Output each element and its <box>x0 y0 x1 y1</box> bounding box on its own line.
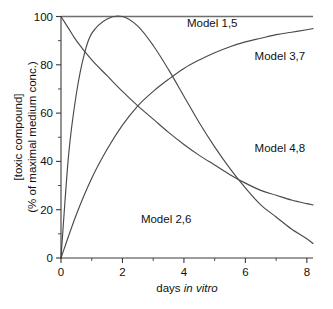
x-ticklabel-0: 0 <box>58 266 64 278</box>
y-axis-title: [toxic compound] (% of maximal medium co… <box>12 61 38 213</box>
x-axis-title-italic: in vitro <box>184 282 218 294</box>
y-ticklabel-100: 100 <box>34 11 53 23</box>
x-ticklabel-group: 02468 <box>58 266 310 278</box>
y-ticklabel-80: 80 <box>40 59 53 71</box>
series-label-model-1-5: Model 1,5 <box>187 17 238 29</box>
y-axis-title-line2: (% of maximal medium conc.) <box>26 61 38 213</box>
line-chart: 020406080100 02468 Model 1,5Model 2,6Mod… <box>0 0 333 309</box>
x-tick-group <box>61 258 307 263</box>
y-ticklabel-60: 60 <box>40 107 53 119</box>
x-axis-title-plain: days <box>156 282 184 294</box>
series-label-model-2-6: Model 2,6 <box>141 213 192 225</box>
y-ticklabel-20: 20 <box>40 204 53 216</box>
y-axis-title-line1: [toxic compound] <box>12 94 24 181</box>
chart-figure: 020406080100 02468 Model 1,5Model 2,6Mod… <box>0 0 333 309</box>
series-label-model-4-8: Model 4,8 <box>255 142 306 154</box>
y-tick-group <box>56 17 61 259</box>
curve-model-4-8 <box>61 17 313 205</box>
y-ticklabel-0: 0 <box>47 252 53 264</box>
x-ticklabel-4: 4 <box>181 266 188 278</box>
y-ticklabel-40: 40 <box>40 155 53 167</box>
series-label-group: Model 1,5Model 2,6Model 3,7Model 4,8 <box>141 17 305 225</box>
series-label-model-3-7: Model 3,7 <box>255 50 306 62</box>
x-ticklabel-8: 8 <box>304 266 310 278</box>
x-ticklabel-2: 2 <box>119 266 125 278</box>
x-ticklabel-6: 6 <box>242 266 248 278</box>
x-axis-title: days in vitro <box>156 282 218 294</box>
